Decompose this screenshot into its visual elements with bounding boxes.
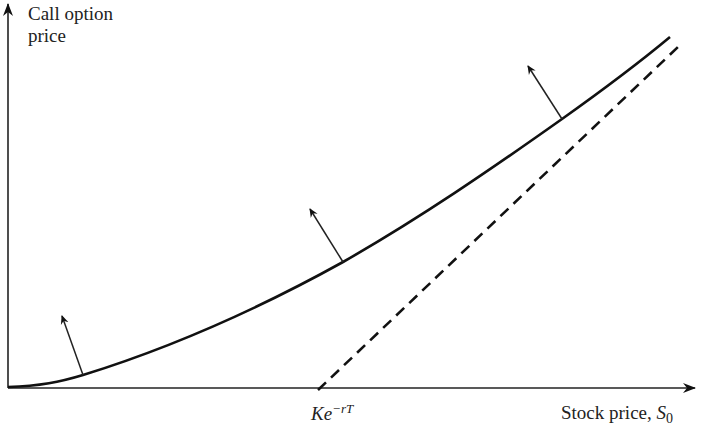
x-axis-subscript: 0 xyxy=(666,411,673,426)
y-axis-label-line1: Call option xyxy=(28,3,113,25)
x-axis-label-text: Stock price, xyxy=(561,402,657,423)
direction-arrow-icon xyxy=(310,209,343,262)
direction-arrow-icon xyxy=(528,66,562,119)
x-axis-label: Stock price, S0 xyxy=(561,402,673,430)
strike-discount-base: Ke xyxy=(311,403,332,424)
strike-discount-exponent: −rT xyxy=(332,401,353,416)
call-price-curve xyxy=(8,37,670,387)
x-axis-variable: S0 xyxy=(657,402,674,423)
direction-arrow-icon xyxy=(62,316,83,375)
strike-discount-label: Ke−rT xyxy=(311,398,353,425)
y-axis-label: Call option price xyxy=(28,3,113,47)
chart-canvas xyxy=(0,0,706,436)
y-axis-label-line2: price xyxy=(28,25,113,47)
lower-bound-dashed-line xyxy=(318,47,678,390)
